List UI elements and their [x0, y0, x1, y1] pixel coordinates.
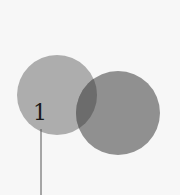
- venn-diagram: 1: [0, 0, 180, 195]
- diagram-canvas: 1: [0, 0, 180, 195]
- callout-label: 1: [33, 100, 47, 125]
